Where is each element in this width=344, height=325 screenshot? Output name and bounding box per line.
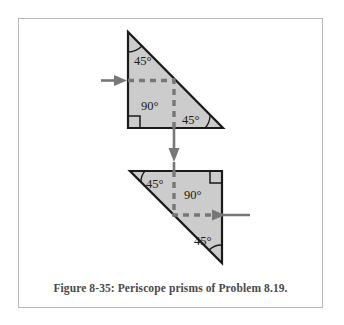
bottom-prism-triangle [130, 171, 222, 263]
figure-container: 45° 90° 45° 45° 90° 45° Figure 8-35: Per… [0, 0, 344, 325]
figure-caption: Figure 8-35: Periscope prisms of Problem… [18, 282, 323, 294]
transfer-ray-arrowhead [169, 148, 180, 162]
bottom-prism-upper-left-angle-label: 45° [146, 177, 164, 191]
top-prism-apex-angle-label: 45° [134, 54, 152, 68]
top-prism-lower-right-angle-label: 45° [182, 113, 200, 127]
incoming-ray-arrowhead [114, 75, 127, 86]
top-prism-right-angle-label: 90° [141, 99, 159, 113]
periscope-prism-diagram: 45° 90° 45° 45° 90° 45° [0, 0, 344, 325]
bottom-prism-lower-angle-label: 45° [194, 234, 212, 248]
bottom-prism-right-angle-label: 90° [184, 188, 202, 202]
